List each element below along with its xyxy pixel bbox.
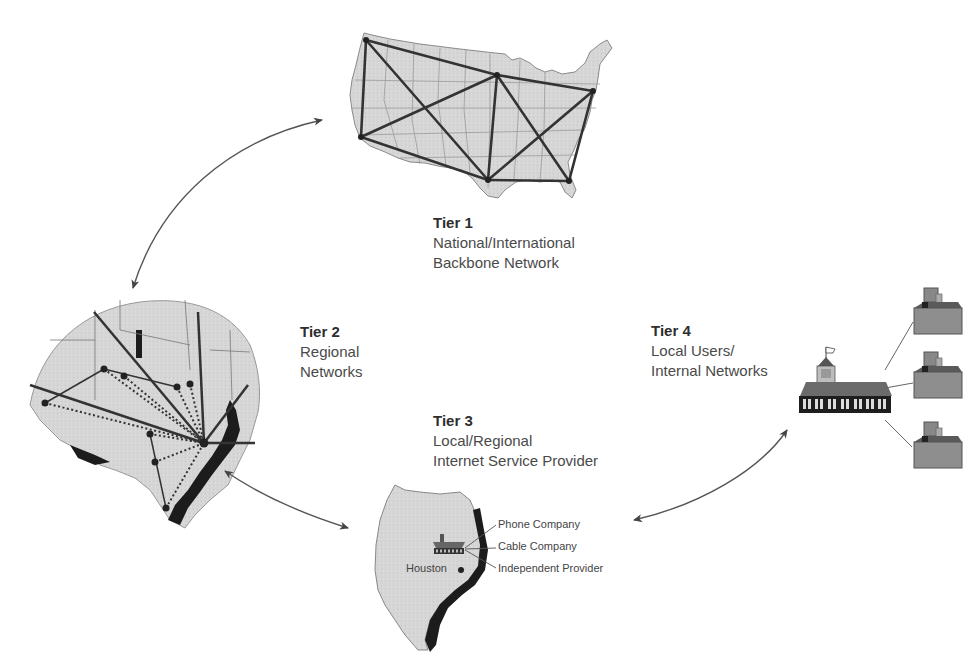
- workstations: [914, 288, 962, 468]
- diagram-canvas: [0, 0, 978, 665]
- school-building-icon: [799, 347, 892, 413]
- lan-links: [885, 322, 913, 447]
- tier2-label: Tier 2 Regional Networks: [300, 322, 363, 382]
- workstation-icon: [914, 352, 962, 398]
- arrow-tier2-tier3: [225, 471, 348, 528]
- tier1-line2: Backbone Network: [433, 253, 575, 273]
- provider-cable-company: Cable Company: [498, 540, 577, 552]
- tier2-line1: Regional: [300, 342, 363, 362]
- houston-dot: [458, 567, 464, 573]
- tier3-label: Tier 3 Local/Regional Internet Service P…: [433, 411, 598, 471]
- tier4-line1: Local Users/: [651, 341, 768, 361]
- tier3-title: Tier 3: [433, 411, 598, 431]
- us-backbone-map: [350, 33, 612, 198]
- tier1-line1: National/International: [433, 233, 575, 253]
- tier4-line2: Internal Networks: [651, 361, 768, 381]
- tier3-line2: Internet Service Provider: [433, 451, 598, 471]
- arrow-tier1-tier2: [133, 120, 322, 288]
- tier2-line2: Networks: [300, 362, 363, 382]
- tier1-label: Tier 1 National/International Backbone N…: [433, 213, 575, 273]
- tier4-title: Tier 4: [651, 321, 768, 341]
- tier1-title: Tier 1: [433, 213, 575, 233]
- regional-texas-map: [30, 300, 260, 528]
- workstation-icon: [914, 288, 962, 334]
- provider-phone-company: Phone Company: [498, 518, 580, 530]
- provider-independent: Independent Provider: [498, 562, 603, 574]
- tier2-title: Tier 2: [300, 322, 363, 342]
- city-label-houston: Houston: [406, 562, 447, 574]
- tier4-label: Tier 4 Local Users/ Internal Networks: [651, 321, 768, 381]
- tier3-line1: Local/Regional: [433, 431, 598, 451]
- workstation-icon: [914, 422, 962, 468]
- arrow-tier3-tier4: [634, 430, 787, 520]
